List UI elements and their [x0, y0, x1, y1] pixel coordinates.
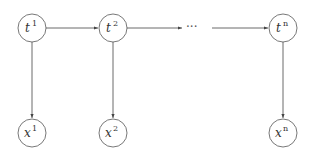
- ellipsis: ···: [186, 20, 197, 34]
- svg-text:x: x: [275, 126, 282, 140]
- svg-text:n: n: [283, 124, 288, 133]
- diagram-canvas: ··· t 1 t 2 t n x 1 x 2 x n: [0, 0, 310, 157]
- svg-text:t: t: [106, 21, 111, 35]
- svg-text:2: 2: [113, 19, 118, 28]
- svg-text:n: n: [283, 19, 288, 28]
- node-tn: t n: [269, 14, 297, 42]
- node-xn: x n: [269, 119, 297, 147]
- svg-text:2: 2: [113, 124, 118, 133]
- svg-text:t: t: [276, 21, 281, 35]
- svg-text:1: 1: [32, 19, 37, 28]
- svg-text:x: x: [105, 126, 112, 140]
- svg-text:t: t: [25, 21, 30, 35]
- node-t1: t 1: [18, 14, 46, 42]
- svg-text:x: x: [24, 126, 31, 140]
- node-t2: t 2: [99, 14, 127, 42]
- svg-text:1: 1: [32, 124, 37, 133]
- node-x2: x 2: [99, 119, 127, 147]
- node-x1: x 1: [18, 119, 46, 147]
